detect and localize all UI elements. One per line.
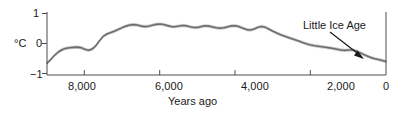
- x-tick-label-6000: 6,000: [155, 80, 183, 92]
- x-tick-label-0: 0: [383, 80, 389, 92]
- y-axis-ticks: [42, 14, 47, 74]
- x-tick-label-8000: 8,000: [68, 80, 96, 92]
- x-axis-ticks: [84, 70, 310, 75]
- y-axis-unit-label: °C: [14, 37, 26, 49]
- x-tick-label-2000: 2,000: [327, 80, 355, 92]
- annotation-little-ice-age-label: Little Ice Age: [303, 19, 366, 31]
- x-tick-label-4000: 4,000: [241, 80, 269, 92]
- y-tick-label-minus-1: −1: [30, 68, 43, 80]
- y-tick-label-1: 1: [33, 7, 39, 19]
- x-axis-title: Years ago: [168, 95, 217, 107]
- y-tick-label-0: 0: [36, 37, 42, 49]
- little-ice-age-arrow: [330, 32, 364, 59]
- temperature-chart-figure: °C 1 0 −1 8,000 6,000 4,000 2,000 0 Year…: [0, 0, 408, 114]
